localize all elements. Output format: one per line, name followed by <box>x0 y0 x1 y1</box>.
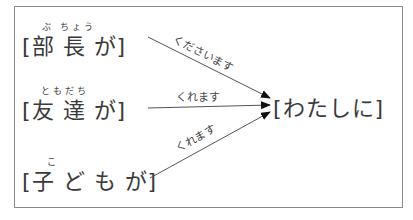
arrow-kuremasu-1 <box>148 105 270 108</box>
label-kuremasu-2: くれます <box>173 122 218 154</box>
label-kuremasu-1: くれます <box>176 91 220 104</box>
arrow-kuremasu-2 <box>150 112 270 178</box>
arrows-layer: くださいます くれます くれます <box>0 0 413 220</box>
arrow-kudasaimasu <box>148 37 270 98</box>
